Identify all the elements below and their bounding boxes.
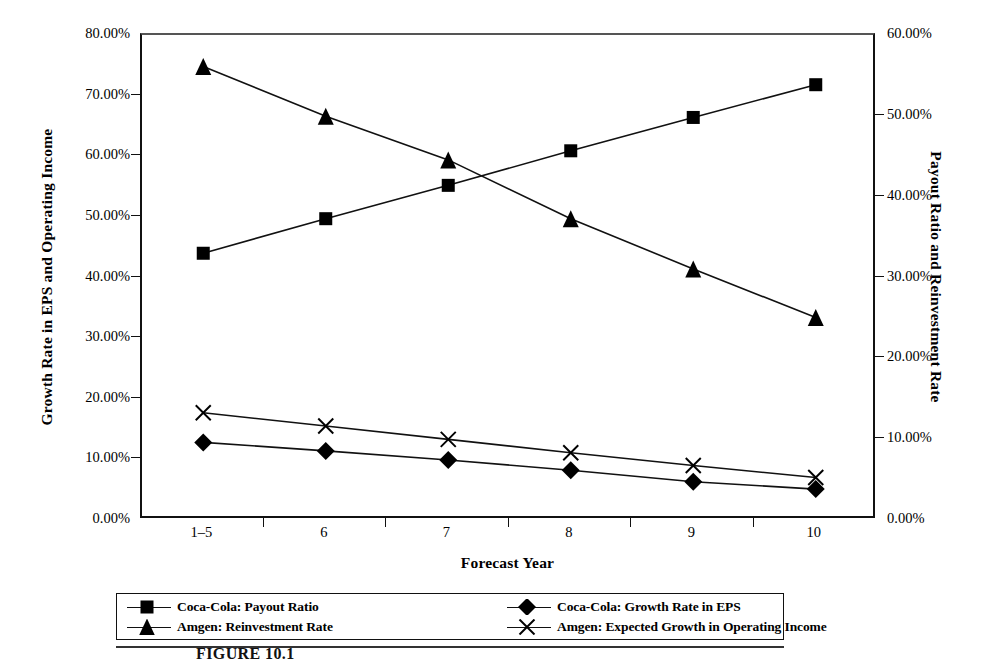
data-point-triangle (139, 619, 155, 635)
y-axis-left-tick-mark (131, 397, 140, 398)
x-axis-tick-label: 7 (443, 524, 450, 541)
y-axis-left-tick-label: 30.00% (85, 328, 130, 345)
y-axis-left-tick-label: 20.00% (85, 388, 130, 405)
y-axis-right-tick-mark (875, 276, 884, 277)
y-axis-right-tick-label: 0.00% (887, 510, 924, 527)
series-square (197, 78, 823, 260)
y-axis-left-tick-mark (131, 457, 140, 458)
chart-legend: Coca-Cola: Payout RatioCoca-Cola: Growth… (116, 593, 784, 640)
y-axis-left-tick-mark (131, 336, 140, 337)
x-axis-tick-label: 10 (807, 524, 822, 541)
y-axis-left-tick-mark (131, 154, 140, 155)
legend-item[interactable]: Coca-Cola: Payout Ratio (127, 597, 319, 617)
data-point-square (809, 78, 822, 91)
data-point-diamond (439, 451, 457, 469)
y-axis-left-tick-label: 0.00% (93, 510, 130, 527)
y-axis-left-tick-label: 70.00% (85, 85, 130, 102)
figure-chart: Growth Rate in EPS and Operating Income … (0, 0, 988, 668)
y-axis-right-ticks: 0.00%10.00%20.00%30.00%40.00%50.00%60.00… (877, 0, 988, 485)
y-axis-left-tick-label: 60.00% (85, 146, 130, 163)
figure-caption: FIGURE 10.1 (196, 645, 295, 663)
data-point-diamond (317, 442, 335, 460)
y-axis-right-tick-label: 30.00% (887, 267, 932, 284)
legend-marker-diamond-icon (507, 599, 551, 615)
y-axis-left-tick-mark (131, 94, 140, 95)
series-canvas (142, 35, 877, 520)
legend-marker-glyph (518, 619, 536, 635)
y-axis-right-tick-mark (875, 195, 884, 196)
x-axis-tick-label: 9 (688, 524, 695, 541)
y-axis-left-ticks: 0.00%10.00%20.00%30.00%40.00%50.00%60.00… (0, 0, 140, 485)
series-diamond (194, 433, 825, 498)
legend-marker-x-icon (507, 619, 551, 635)
data-point-triangle (685, 261, 701, 278)
y-axis-left-tick-label: 50.00% (85, 206, 130, 223)
legend-label: Amgen: Expected Growth in Operating Inco… (557, 619, 827, 635)
data-point-square (442, 179, 455, 192)
y-axis-left-tick-label: 10.00% (85, 449, 130, 466)
y-axis-right-tick-label: 20.00% (887, 348, 932, 365)
legend-marker-glyph (138, 599, 156, 615)
data-point-diamond (518, 599, 536, 615)
legend-item[interactable]: Coca-Cola: Growth Rate in EPS (507, 597, 741, 617)
legend-item[interactable]: Amgen: Expected Growth in Operating Inco… (507, 617, 827, 637)
x-axis-tick-mark (263, 518, 264, 527)
y-axis-right-tick-mark (875, 114, 884, 115)
data-point-triangle (195, 58, 211, 75)
data-point-square (564, 144, 577, 157)
legend-label: Coca-Cola: Growth Rate in EPS (557, 599, 741, 615)
x-axis-tick-mark (753, 518, 754, 527)
x-axis-tick-label: 8 (565, 524, 572, 541)
y-axis-right-tick-label: 60.00% (887, 25, 932, 42)
y-axis-right-tick-mark (875, 356, 884, 357)
y-axis-left-tick-label: 80.00% (85, 25, 130, 42)
legend-item[interactable]: Amgen: Reinvestment Rate (127, 617, 333, 637)
y-axis-left-tick-mark (131, 215, 140, 216)
data-point-triangle (563, 210, 579, 227)
data-point-triangle (318, 108, 334, 125)
series-x (196, 405, 824, 485)
x-axis-tick-mark (385, 518, 386, 527)
figure-caption-clip: FIGURE 10.1 (0, 645, 988, 668)
x-axis-tick-label: 6 (320, 524, 327, 541)
y-axis-right-tick-mark (875, 437, 884, 438)
legend-marker-glyph (518, 599, 536, 615)
y-axis-right-tick-label: 50.00% (887, 105, 932, 122)
series-triangle (195, 58, 824, 326)
data-point-diamond (684, 473, 702, 491)
legend-label: Amgen: Reinvestment Rate (177, 619, 333, 635)
y-axis-right-tick-label: 40.00% (887, 186, 932, 203)
plot-area (140, 33, 875, 518)
data-point-diamond (562, 461, 580, 479)
x-axis-tick-mark (630, 518, 631, 527)
x-axis-tick-label: 1–5 (190, 524, 212, 541)
data-point-triangle (440, 151, 456, 168)
data-point-x (520, 620, 535, 635)
data-point-square (141, 601, 154, 614)
legend-marker-triangle-icon (127, 619, 171, 635)
data-point-diamond (194, 433, 212, 451)
legend-label: Coca-Cola: Payout Ratio (177, 599, 319, 615)
y-axis-left-tick-label: 40.00% (85, 267, 130, 284)
legend-marker-glyph (138, 619, 156, 635)
data-point-square (197, 247, 210, 260)
data-point-square (687, 111, 700, 124)
data-point-triangle (808, 309, 824, 326)
x-axis-title: Forecast Year (140, 554, 875, 572)
y-axis-right-tick-label: 10.00% (887, 429, 932, 446)
y-axis-left-tick-mark (131, 276, 140, 277)
legend-marker-square-icon (127, 599, 171, 615)
x-axis-tick-mark (508, 518, 509, 527)
data-point-square (319, 212, 332, 225)
